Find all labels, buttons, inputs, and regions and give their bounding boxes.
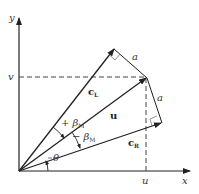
c-l-label: cL — [88, 86, 99, 98]
diagram-canvas: y x v u a a cL u cR + βM − βM θ — [0, 0, 199, 194]
plus-beta-label: + βM — [61, 117, 85, 129]
x-axis-label: x — [182, 175, 188, 186]
vector-diagram: y x v u a a cL u cR + βM − βM θ — [0, 0, 199, 194]
minus-beta-label: − βM — [72, 131, 96, 143]
arc-theta — [46, 161, 48, 171]
a-upper-label: a — [132, 51, 138, 62]
a-lower-label: a — [157, 92, 163, 103]
c-r-label: cR — [128, 137, 140, 149]
vector-c-l — [19, 49, 114, 171]
v-label: v — [8, 71, 14, 82]
segment-a-upper — [114, 49, 147, 78]
theta-label: θ — [53, 152, 59, 163]
right-angle-marker-upper — [110, 54, 121, 60]
u-vector-label: u — [110, 110, 117, 121]
vector-c-r — [19, 123, 161, 171]
u-label: u — [142, 175, 148, 186]
arc-plus-beta — [53, 127, 64, 138]
y-axis-label: y — [8, 12, 15, 23]
